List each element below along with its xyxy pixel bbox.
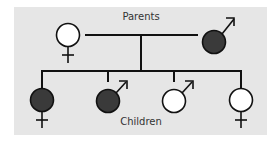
- children-label: Children: [120, 116, 162, 127]
- father-symbol: [203, 18, 235, 54]
- child-1-symbol: [31, 89, 54, 129]
- female-symbol-icon: [31, 89, 54, 112]
- female-symbol-icon: [230, 89, 253, 112]
- parents-label: Parents: [122, 11, 159, 22]
- child-4-symbol: [230, 89, 253, 129]
- mother-symbol: [57, 24, 80, 64]
- child-2-symbol: [97, 81, 128, 113]
- child-3-symbol: [163, 81, 194, 113]
- female-symbol-icon: [57, 24, 80, 47]
